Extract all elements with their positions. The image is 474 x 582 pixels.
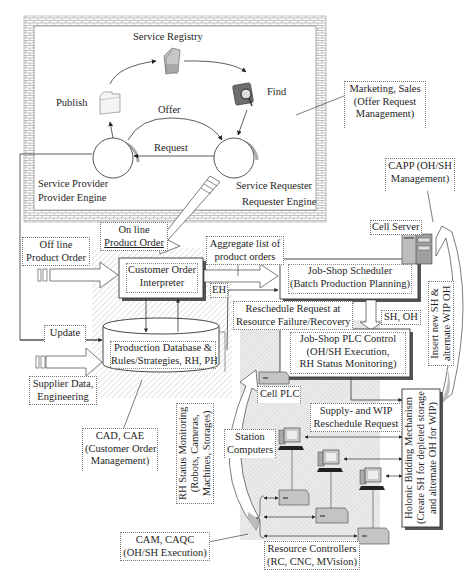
plc-line-1: Job-Shop PLC Control: [291, 333, 405, 346]
marketing-note: Marketing, Sales (Offer Request Manageme…: [344, 81, 426, 128]
insert-sh-vertical: Insert new SH & alternate WIP OH: [428, 281, 454, 366]
cell-server-label: Cell Server: [370, 220, 422, 235]
request-label: Request: [154, 142, 188, 154]
cad-line-2: (Customer Order: [85, 443, 155, 456]
rh-line-2: (Robots, Cameras,: [189, 407, 201, 500]
cad-line-3: Management): [85, 455, 155, 468]
provider-label-2: Provider Engine: [38, 192, 107, 204]
provider-label-1: Service Provider: [38, 178, 108, 190]
holonic-line-2: (Create SH for depleted storage: [415, 392, 427, 524]
online-line-2: Product Order: [103, 237, 165, 250]
rh-line-3: Machines, Storages): [201, 407, 213, 500]
holonic-line-3: and alternate OH for WIP): [427, 392, 439, 524]
reschedule-note: Reschedule Request at Resource Failure/R…: [233, 301, 353, 330]
station-line-2: Computers: [227, 444, 273, 457]
station-computer-3-icon: [359, 468, 385, 490]
resource-controller-3-icon: [358, 528, 389, 544]
resource-line-1: Resource Controllers: [267, 543, 357, 556]
plc-line-2: (OH/SH Execution,: [291, 346, 405, 359]
scheduler-line-1: Job-Shop Scheduler: [289, 265, 411, 278]
resource-controller-2-icon: [316, 508, 348, 523]
update-note: Update: [44, 325, 86, 342]
supplier-line-1: Supplier Data,: [32, 378, 94, 391]
plc-label: Job-Shop PLC Control (OH/SH Execution, R…: [290, 332, 406, 374]
marketing-line-2: (Offer Request: [347, 96, 423, 109]
insert-line-1: Insert new SH &: [429, 286, 441, 361]
rh-status-vertical: RH Status Monitoring (Robots, Cameras, M…: [176, 403, 214, 504]
station-computer-1-icon: [278, 428, 304, 450]
find-magnifier-icon: [232, 83, 253, 106]
resource-controllers-note: Resource Controllers (RC, CNC, MVision): [264, 541, 360, 570]
cam-line-1: CAM, CAQC: [123, 534, 207, 547]
cell-server-icon: [402, 234, 432, 264]
reschedule-line-2: Resource Failure/Recovery: [236, 316, 350, 329]
offline-line-2: Product Order: [25, 252, 87, 265]
publish-label: Publish: [56, 97, 88, 109]
cad-cae-note: CAD, CAE (Customer Order Management): [82, 428, 158, 471]
aggregate-note: Aggregate list of product orders: [206, 236, 284, 265]
supplier-line-2: Engineering: [32, 391, 94, 404]
service-registry-label: Service Registry: [133, 31, 203, 43]
capp-line-2: Management): [388, 173, 452, 186]
resource-controller-1-icon: [279, 490, 309, 505]
online-line-1: On line: [103, 224, 165, 237]
marketing-line-3: Management): [347, 108, 423, 121]
db-line-2: Rules/Strategies, RH, PH: [111, 355, 215, 368]
insert-sh-note: Insert new SH & alternate WIP OH: [428, 366, 444, 368]
coi-line-2: Interpreter: [127, 277, 197, 290]
supply-wip-note: Supply- and WIP Reschedule Request: [310, 403, 402, 432]
supply-line-2: Reschedule Request: [313, 418, 399, 431]
requester-label-2: Requester Engine: [242, 196, 316, 208]
database-label: Production Database & Rules/Strategies, …: [110, 341, 216, 369]
aggregate-line-2: product orders: [209, 251, 281, 264]
station-computer-2-icon: [317, 450, 343, 472]
cam-line-2: (OH/SH Execution): [123, 547, 207, 560]
find-label: Find: [267, 86, 286, 98]
sh-oh-label: SH, OH: [381, 310, 421, 325]
scheduler-line-2: (Batch Production Planning): [289, 278, 411, 291]
scheduler-label: Job-Shop Scheduler (Batch Production Pla…: [288, 264, 412, 294]
requester-label-1: Service Requester: [236, 180, 312, 192]
capp-note: CAPP (OH/SH Management): [385, 158, 455, 191]
capp-connector: [427, 188, 433, 222]
offer-label: Offer: [158, 104, 181, 116]
supply-line-1: Supply- and WIP: [313, 405, 399, 418]
publish-folder-icon: [100, 92, 120, 114]
online-order-note: On line Product Order: [100, 222, 168, 251]
rh-line-1: RH Status Monitoring: [177, 407, 189, 500]
coi-label: Customer Order Interpreter: [126, 263, 198, 293]
holonic-line-1: Holonic Bidding Mechanism: [403, 392, 415, 524]
eh-label: EH: [210, 283, 228, 298]
reschedule-line-1: Reschedule Request at: [236, 303, 350, 316]
cell-plc-label: Cell PLC: [257, 386, 301, 403]
plc-line-3: RH Status Monitoring): [291, 358, 405, 371]
holonic-vertical: Holonic Bidding Mechanism (Create SH for…: [403, 392, 439, 524]
station-line-1: Station: [227, 431, 273, 444]
cam-caqc-note: CAM, CAQC (OH/SH Execution): [120, 532, 210, 561]
resource-line-2: (RC, CNC, MVision): [267, 556, 357, 569]
offline-line-1: Off line: [25, 239, 87, 252]
insert-line-2: alternate WIP OH: [441, 286, 453, 361]
cad-line-1: CAD, CAE: [85, 430, 155, 443]
offline-order-note: Off line Product Order: [22, 237, 90, 266]
db-line-1: Production Database &: [111, 342, 215, 355]
cell-plc-device-icon: [259, 372, 289, 384]
station-computers-note: Station Computers: [224, 429, 276, 458]
coi-line-1: Customer Order: [127, 264, 197, 277]
aggregate-line-1: Aggregate list of: [209, 238, 281, 251]
supplier-note: Supplier Data, Engineering: [29, 376, 97, 405]
capp-line-1: CAPP (OH/SH: [388, 160, 452, 173]
marketing-line-1: Marketing, Sales: [347, 83, 423, 96]
